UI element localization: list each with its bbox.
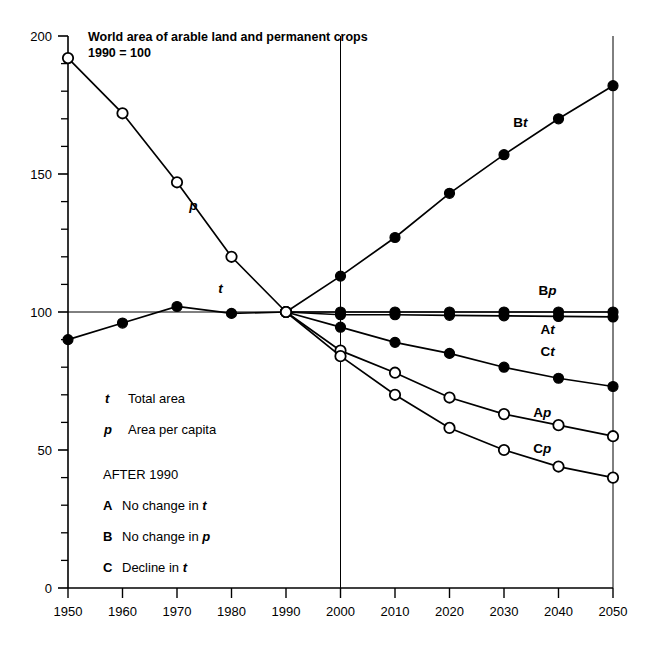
y-tick-label-150: 150 (30, 167, 52, 182)
data-point-Cp-1990 (281, 307, 291, 317)
series-t (63, 301, 291, 344)
series-label-t: t (218, 281, 223, 296)
data-point-Bt-2020 (445, 188, 455, 198)
data-point-Ct-2020 (445, 348, 455, 358)
legend-label-total-area: Total area (128, 391, 186, 406)
data-point-Ct-2040 (554, 373, 564, 383)
data-point-Ap-2010 (390, 368, 400, 378)
series-label-Cp: Cp (533, 441, 551, 456)
legend-label-B: No change in p (122, 529, 210, 544)
x-tick-label-1960: 1960 (108, 604, 137, 619)
data-point-Bt-2030 (499, 150, 509, 160)
data-point-At-2010 (390, 310, 400, 320)
x-tick-label-2030: 2030 (490, 604, 519, 619)
data-point-t-1950 (63, 335, 73, 345)
x-tick-label-1990: 1990 (272, 604, 301, 619)
data-point-Cp-2050 (608, 472, 618, 482)
series-label-p: p (188, 198, 197, 213)
x-tick-label-2040: 2040 (544, 604, 573, 619)
x-ticks (68, 588, 613, 598)
legend-label-A: No change in t (122, 498, 207, 513)
data-point-Cp-2010 (390, 390, 400, 400)
series-annotations: BtBpAtCtApCppt (188, 115, 556, 456)
x-tick-label-2020: 2020 (435, 604, 464, 619)
series-label-Bp: Bp (539, 283, 557, 298)
data-point-Ct-2030 (499, 362, 509, 372)
legend-label-area-per-capita: Area per capita (128, 422, 217, 437)
data-point-At-2000 (336, 310, 346, 320)
series-line-Ap (286, 312, 613, 436)
x-tick-label-2050: 2050 (599, 604, 628, 619)
series-label-Bt: Bt (513, 115, 528, 130)
data-point-At-2040 (554, 311, 564, 321)
data-point-Cp-2030 (499, 445, 509, 455)
data-point-p-1950 (63, 53, 73, 63)
y-tick-label-50: 50 (38, 443, 52, 458)
data-point-t-1970 (172, 301, 182, 311)
series-p (63, 53, 291, 317)
series-label-At: At (540, 322, 555, 337)
x-tick-label-1980: 1980 (217, 604, 246, 619)
legend-key-t: t (105, 391, 110, 406)
series-Bt (281, 81, 618, 317)
legend-label-C: Decline in t (122, 560, 188, 575)
data-point-Bt-2040 (554, 114, 564, 124)
data-point-Cp-2040 (553, 461, 563, 471)
data-point-At-2020 (445, 310, 455, 320)
data-point-Bt-2050 (608, 81, 618, 91)
y-tick-label-200: 200 (30, 29, 52, 44)
data-point-Bt-2000 (336, 271, 346, 281)
x-tick-label-1970: 1970 (163, 604, 192, 619)
x-tick-label-2010: 2010 (381, 604, 410, 619)
chart-container: 0 50 100 150 200 1950 1960 1970 1980 199… (0, 0, 661, 650)
y-tick-label-0: 0 (45, 581, 52, 596)
data-point-Ap-2050 (608, 431, 618, 441)
x-tick-label-2000: 2000 (326, 604, 355, 619)
series-label-Ct: Ct (540, 344, 555, 359)
legend-key-C: C (103, 560, 113, 575)
series-label-Ap: Ap (533, 405, 551, 420)
legend-key-A: A (103, 498, 113, 513)
data-point-Ap-2040 (553, 420, 563, 430)
data-point-p-1960 (117, 108, 127, 118)
y-tick-label-100: 100 (30, 305, 52, 320)
data-point-t-1980 (227, 308, 237, 318)
line-chart: 0 50 100 150 200 1950 1960 1970 1980 199… (0, 0, 661, 650)
data-point-p-1970 (172, 177, 182, 187)
data-point-Cp-2000 (335, 351, 345, 361)
legend-box: t Total area p Area per capita AFTER 199… (103, 391, 217, 575)
chart-title: World area of arable land and permanent … (88, 30, 368, 44)
data-point-Ct-2000 (336, 322, 346, 332)
data-point-Ap-2030 (499, 409, 509, 419)
x-tick-label-1950: 1950 (54, 604, 83, 619)
chart-subtitle: 1990 = 100 (88, 46, 151, 60)
data-point-Ct-2050 (608, 382, 618, 392)
data-point-t-1960 (118, 318, 128, 328)
legend-key-p: p (103, 422, 112, 437)
data-point-Ap-2020 (444, 392, 454, 402)
series-Ap (281, 307, 618, 442)
data-point-At-2050 (608, 312, 618, 322)
legend-header-after-1990: AFTER 1990 (103, 467, 178, 482)
legend-key-B: B (103, 529, 112, 544)
data-point-Ct-2010 (390, 337, 400, 347)
data-point-At-2030 (499, 311, 509, 321)
data-point-p-1980 (226, 252, 236, 262)
data-point-Cp-2020 (444, 423, 454, 433)
data-point-Bt-2010 (390, 232, 400, 242)
